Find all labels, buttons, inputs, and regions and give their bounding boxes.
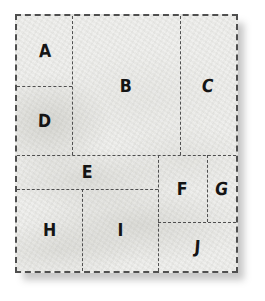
paper-sheet: A B C D E F G H I J xyxy=(15,14,238,273)
region-i: I xyxy=(82,189,158,271)
region-d-label: D xyxy=(38,111,52,130)
diagram-canvas: A B C D E F G H I J xyxy=(0,0,265,301)
region-h: H xyxy=(17,189,82,271)
region-g-label: G xyxy=(214,180,229,198)
region-f-label: F xyxy=(177,180,188,198)
region-a-label: A xyxy=(38,42,51,60)
region-h-label: H xyxy=(43,221,56,239)
region-a: A xyxy=(17,16,72,86)
region-f: F xyxy=(158,155,207,222)
region-c: C xyxy=(180,16,236,155)
region-i-label: I xyxy=(117,221,123,239)
region-b-label: B xyxy=(120,77,132,95)
region-j-label: J xyxy=(193,238,200,256)
region-e: E xyxy=(17,155,158,189)
region-e-label: E xyxy=(82,163,93,181)
region-c-label: C xyxy=(201,77,215,95)
region-g: G xyxy=(207,155,236,222)
region-b: B xyxy=(72,16,180,155)
region-d: D xyxy=(17,86,72,155)
region-j: J xyxy=(158,222,236,271)
